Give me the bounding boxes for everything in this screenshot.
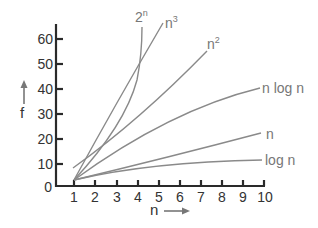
label-n: n (266, 126, 274, 142)
y-axis-title: f (20, 104, 25, 121)
y-tick-30: 30 (37, 106, 53, 122)
x-tick-1: 1 (70, 189, 78, 205)
y-axis-title-group: f (20, 80, 28, 121)
label-n-cubed: n3 (165, 14, 178, 31)
complexity-chart: 60 50 40 30 20 10 0 1 2 3 4 5 6 7 8 9 10… (0, 0, 318, 228)
label-n-log-n: n log n (262, 80, 304, 96)
y-tick-0: 0 (44, 179, 52, 195)
y-tick-labels: 60 50 40 30 20 10 0 (37, 31, 53, 195)
label-n-squared: n2 (207, 35, 220, 52)
y-tick-60: 60 (37, 31, 53, 47)
x-tick-3: 3 (113, 189, 121, 205)
curves (73, 23, 262, 180)
x-tick-labels: 1 2 3 4 5 6 7 8 9 10 (70, 189, 273, 205)
x-axis-title-group: n (150, 201, 190, 218)
x-tick-4: 4 (134, 189, 142, 205)
y-tick-20: 20 (37, 131, 53, 147)
label-log-n: log n (265, 152, 295, 168)
curve-n-squared (73, 51, 207, 168)
x-tick-10: 10 (257, 189, 273, 205)
x-tick-2: 2 (91, 189, 99, 205)
curve-n-log-n (74, 88, 260, 180)
x-tick-9: 9 (239, 189, 247, 205)
y-tick-50: 50 (37, 56, 53, 72)
y-tick-40: 40 (37, 81, 53, 97)
right-arrow-head-icon (182, 208, 190, 215)
axes (55, 24, 265, 187)
curve-log-n (74, 160, 262, 180)
y-tick-10: 10 (37, 156, 53, 172)
curve-n-cubed (74, 23, 163, 180)
x-axis-title: n (150, 201, 158, 218)
x-tick-8: 8 (218, 189, 226, 205)
curve-n (74, 133, 261, 180)
up-arrow-head-icon (21, 80, 28, 88)
label-2-to-n: 2n (135, 8, 148, 25)
x-tick-6: 6 (176, 189, 184, 205)
x-tick-7: 7 (197, 189, 205, 205)
